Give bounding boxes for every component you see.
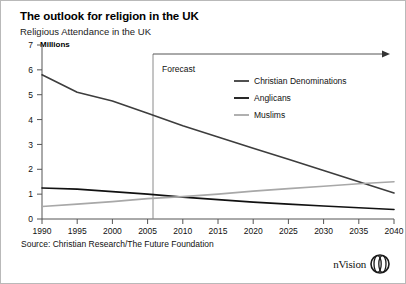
y-axis-tick-label: 3 [28, 140, 33, 150]
y-axis-ticks [37, 45, 42, 219]
forecast-arrowhead-icon [382, 51, 390, 58]
source-note: Source: Christian Research/The Future Fo… [21, 239, 214, 249]
series-line-anglicans [42, 188, 394, 210]
y-axis-tick-labels: 01234567 [28, 40, 33, 224]
x-axis-tick-label: 1995 [68, 226, 87, 236]
chart-card: The outlook for religion in the UK Relig… [0, 0, 406, 284]
y-axis-tick-label: 1 [28, 189, 33, 199]
x-axis-tick-label: 2035 [349, 226, 368, 236]
nvision-circle-logo-icon [369, 253, 391, 275]
x-axis-tick-labels: 1990199520002005201020152020202520302035… [33, 226, 404, 236]
x-axis-tick-label: 2010 [173, 226, 192, 236]
brand-logo: nVision [333, 253, 391, 275]
y-axis-tick-label: 5 [28, 90, 33, 100]
x-axis-tick-label: 2005 [138, 226, 157, 236]
x-axis-tick-label: 2000 [103, 226, 122, 236]
chart-legend: Christian DenominationsAnglicansMuslims [234, 76, 347, 120]
x-axis-tick-label: 2030 [314, 226, 333, 236]
series-line-christian-denominations [42, 75, 394, 193]
y-axis-tick-label: 4 [28, 115, 33, 125]
x-axis-tick-label: 2025 [279, 226, 298, 236]
chart-series-group [42, 75, 394, 210]
x-axis-tick-label: 2040 [385, 226, 404, 236]
y-axis-tick-label: 6 [28, 65, 33, 75]
y-axis-tick-label: 2 [28, 164, 33, 174]
x-axis-tick-label: 2020 [244, 226, 263, 236]
y-axis-tick-label: 7 [28, 40, 33, 50]
series-line-muslims [42, 182, 394, 207]
legend-label-christian-denominations: Christian Denominations [254, 76, 347, 86]
legend-label-muslims: Muslims [254, 110, 285, 120]
legend-label-anglicans: Anglicans [254, 93, 291, 103]
x-axis-tick-label: 1990 [33, 226, 52, 236]
forecast-label: Forecast [162, 64, 196, 74]
y-axis-tick-label: 0 [28, 214, 33, 224]
brand-name: nVision [333, 258, 366, 270]
x-axis-ticks [42, 219, 394, 224]
x-axis-tick-label: 2015 [209, 226, 228, 236]
